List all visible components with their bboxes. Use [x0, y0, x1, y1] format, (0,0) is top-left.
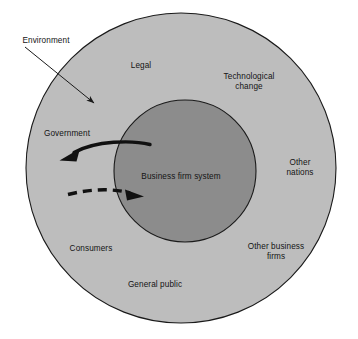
- diagram-graphics: [0, 0, 358, 339]
- diagram-canvas: Environment Legal Technological change G…: [0, 0, 358, 339]
- business-firm-system-circle: [114, 100, 256, 242]
